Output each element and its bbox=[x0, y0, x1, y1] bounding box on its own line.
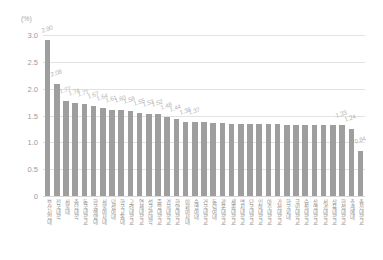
bar-slot[interactable] bbox=[301, 35, 310, 196]
bar[interactable] bbox=[302, 125, 308, 196]
bar-slot[interactable]: 1.58 bbox=[126, 35, 135, 196]
bar[interactable] bbox=[220, 123, 226, 196]
bar-slot[interactable] bbox=[227, 35, 236, 196]
bar-slot[interactable]: 2.90 bbox=[43, 35, 52, 196]
bar-slot[interactable] bbox=[218, 35, 227, 196]
bar-slot[interactable]: 0.84 bbox=[356, 35, 365, 196]
bar-slot[interactable] bbox=[199, 35, 208, 196]
bar-slot[interactable] bbox=[310, 35, 319, 196]
bar[interactable] bbox=[330, 125, 336, 196]
bar[interactable] bbox=[321, 125, 327, 196]
bar[interactable] bbox=[256, 124, 262, 196]
x-label-slot: 한성대학교 bbox=[338, 199, 347, 257]
bar[interactable] bbox=[339, 125, 345, 196]
bar[interactable] bbox=[312, 125, 318, 196]
bar-slot[interactable] bbox=[319, 35, 328, 196]
bar-slot[interactable]: 1.60 bbox=[117, 35, 126, 196]
x-axis-category-label: 동덕여대 bbox=[210, 199, 216, 257]
x-label-slot: 명지대학교 bbox=[236, 199, 245, 257]
bar-slot[interactable]: 1.71 bbox=[80, 35, 89, 196]
bar[interactable] bbox=[82, 104, 88, 196]
bar[interactable] bbox=[155, 114, 161, 196]
y-axis-tick-label: 0.5 bbox=[28, 165, 38, 174]
bar[interactable] bbox=[183, 122, 189, 196]
bar[interactable] bbox=[293, 125, 299, 196]
x-axis-category-label: 이화여자대 bbox=[183, 199, 189, 257]
bar[interactable] bbox=[238, 124, 244, 196]
bar-series: 2.902.081.771.741.711.671.641.611.601.58… bbox=[43, 35, 365, 196]
bar-slot[interactable]: 1.37 bbox=[190, 35, 199, 196]
x-label-slot: 한국외대 bbox=[282, 199, 291, 257]
bar-value-label: 0.84 bbox=[353, 135, 366, 145]
bar-slot[interactable]: 2.08 bbox=[52, 35, 61, 196]
x-label-slot: 한국교통대 bbox=[117, 199, 126, 257]
bar-slot[interactable] bbox=[245, 35, 254, 196]
y-axis-tick-labels: 3.02.52.01.51.00.50 bbox=[8, 35, 38, 196]
y-axis-tick-label: 3.0 bbox=[28, 31, 38, 40]
bar-slot[interactable] bbox=[291, 35, 300, 196]
bar-slot[interactable] bbox=[273, 35, 282, 196]
bar[interactable] bbox=[100, 108, 106, 196]
x-label-slot: 이화여자대 bbox=[181, 199, 190, 257]
bar[interactable] bbox=[146, 114, 152, 196]
x-axis-category-label: 세종대학교 bbox=[229, 199, 235, 257]
bar[interactable] bbox=[91, 106, 97, 196]
bar[interactable] bbox=[229, 124, 235, 196]
x-axis-category-label: 총신대학교 bbox=[358, 199, 364, 257]
bar-value-label: 2.90 bbox=[40, 24, 53, 34]
x-label-slot: 전국대학 bbox=[52, 199, 61, 257]
x-label-slot: 고려대학교 bbox=[126, 199, 135, 257]
bar[interactable] bbox=[358, 151, 364, 196]
bar-value-label: 2.08 bbox=[49, 68, 62, 78]
x-axis-category-label: 경희대학교 bbox=[164, 199, 170, 257]
bar-slot[interactable]: 1.53 bbox=[144, 35, 153, 196]
x-label-slot: 성균관대학 bbox=[144, 199, 153, 257]
bar-slot[interactable]: 1.77 bbox=[61, 35, 70, 196]
bar[interactable] bbox=[109, 110, 115, 196]
bar-slot[interactable] bbox=[255, 35, 264, 196]
x-axis-category-label: 숭실대학교 bbox=[302, 199, 308, 257]
x-axis-category-label: 한국해양대 bbox=[91, 199, 97, 257]
x-label-slot: 가천대학교 bbox=[273, 199, 282, 257]
bar[interactable] bbox=[118, 110, 124, 196]
bar[interactable] bbox=[210, 123, 216, 196]
bar-slot[interactable] bbox=[264, 35, 273, 196]
bar-slot[interactable]: 1.67 bbox=[89, 35, 98, 196]
x-axis-category-label: 동국대학교 bbox=[82, 199, 88, 257]
bar[interactable] bbox=[275, 124, 281, 196]
x-axis-category-label: 전국대학 bbox=[54, 199, 60, 257]
bar-slot[interactable] bbox=[236, 35, 245, 196]
bar[interactable] bbox=[137, 113, 143, 196]
bar[interactable] bbox=[128, 111, 134, 196]
x-axis-category-label: 서경대학교 bbox=[321, 199, 327, 257]
y-axis-tick-label: 1.0 bbox=[28, 138, 38, 147]
x-axis-category-label: 한국외대 bbox=[284, 199, 290, 257]
bar-slot[interactable]: 1.48 bbox=[163, 35, 172, 196]
x-axis-category-label: 가천대학교 bbox=[275, 199, 281, 257]
bar-slot[interactable]: 1.64 bbox=[98, 35, 107, 196]
bar-slot[interactable]: 1.52 bbox=[153, 35, 162, 196]
bar[interactable] bbox=[45, 40, 51, 196]
bar[interactable] bbox=[284, 125, 290, 196]
x-axis-category-label: 부산시립대 bbox=[45, 199, 51, 257]
x-axis-category-label: 고려대학교 bbox=[128, 199, 134, 257]
bar-value-label: 1.37 bbox=[187, 106, 200, 116]
bar[interactable] bbox=[54, 84, 60, 196]
x-axis-category-labels: 부산시립대전국대학서울대충남대학동국대학교한국해양대서울여자대덕성여대한국교통대… bbox=[43, 199, 365, 257]
bar[interactable] bbox=[164, 117, 170, 196]
bar[interactable] bbox=[72, 103, 78, 196]
bar-slot[interactable]: 1.61 bbox=[107, 35, 116, 196]
bar-slot[interactable]: 1.24 bbox=[347, 35, 356, 196]
bar[interactable] bbox=[63, 101, 69, 196]
bar[interactable] bbox=[266, 124, 272, 196]
bar-slot[interactable] bbox=[209, 35, 218, 196]
bar[interactable] bbox=[192, 122, 198, 196]
bar-slot[interactable]: 1.74 bbox=[71, 35, 80, 196]
bar[interactable] bbox=[201, 122, 207, 196]
bar-slot[interactable] bbox=[282, 35, 291, 196]
bar-slot[interactable]: 1.55 bbox=[135, 35, 144, 196]
gridline bbox=[43, 196, 365, 197]
bar[interactable] bbox=[174, 119, 180, 196]
bar[interactable] bbox=[247, 124, 253, 196]
x-axis-category-label: 서울여자대 bbox=[100, 199, 106, 257]
